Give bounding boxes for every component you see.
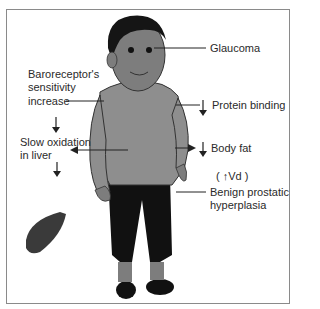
label-baroreceptor-1: Baroreceptor's xyxy=(28,68,99,81)
label-protein-binding: Protein binding xyxy=(212,99,285,112)
left-eye xyxy=(128,47,134,53)
label-bph-1: Benign prostatic xyxy=(210,186,289,199)
label-body-fat: Body fat xyxy=(211,142,251,155)
shirt xyxy=(98,82,186,185)
right-eye xyxy=(146,47,152,53)
label-baroreceptor-2: sensitivity xyxy=(28,81,76,94)
liver-icon xyxy=(26,212,66,253)
label-vd: ( ↑Vd ) xyxy=(216,170,248,183)
pants xyxy=(108,175,172,262)
left-shoe xyxy=(116,281,136,299)
label-baroreceptor-3: increase xyxy=(28,95,70,108)
right-shoe xyxy=(146,279,174,295)
label-glaucoma: Glaucoma xyxy=(210,42,260,55)
label-bph-2: hyperplasia xyxy=(210,199,266,212)
label-slow-oxidation-1: Slow oxidation xyxy=(20,136,91,149)
ear xyxy=(107,52,117,68)
label-slow-oxidation-2: in liver xyxy=(20,149,52,162)
